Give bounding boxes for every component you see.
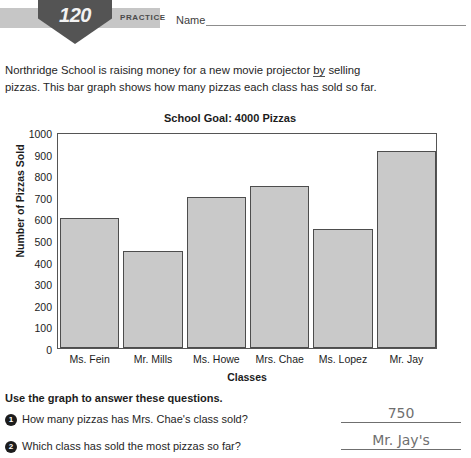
x-axis-tick-4: Mrs. Chae: [248, 353, 311, 365]
y-axis-tick-600: 600: [6, 214, 58, 226]
question-number-badge: 2: [5, 441, 17, 453]
question-text: How many pizzas has Mrs. Chae's class so…: [22, 413, 248, 425]
answer-text: Mr. Jay's: [341, 432, 461, 449]
intro-line-1-underlined: by: [313, 64, 325, 77]
lesson-badge: 120: [38, 0, 112, 44]
name-label: Name: [176, 14, 205, 26]
bar-ms-howe: [187, 197, 246, 348]
page-header: 120 PRACTICE Name: [0, 0, 471, 46]
chart-title: School Goal: 4000 Pizzas: [0, 112, 460, 124]
name-field[interactable]: Name: [176, 14, 466, 26]
bar-ms-fein: [60, 218, 119, 348]
practice-label: PRACTICE: [120, 13, 166, 22]
x-axis-tick-2: Mr. Mills: [121, 353, 184, 365]
chart-x-axis-label: Classes: [57, 371, 437, 383]
y-axis-tick-200: 200: [6, 301, 58, 313]
bar-mr-mills: [123, 251, 182, 348]
y-axis-tick-700: 700: [6, 193, 58, 205]
x-axis-tick-5: Ms. Lopez: [311, 353, 374, 365]
y-axis-tick-100: 100: [6, 322, 58, 334]
bar-chart-plot-area: 01002003004005006007008009001000Ms. Fein…: [57, 133, 437, 349]
bar-mr-jay: [377, 151, 436, 348]
y-axis-tick-400: 400: [6, 258, 58, 270]
question-text: Which class has sold the most pizzas so …: [22, 440, 241, 452]
intro-line-3: sold so far.: [322, 81, 377, 93]
answer-text: 750: [341, 405, 461, 422]
answer-field[interactable]: 750: [341, 405, 461, 423]
intro-paragraph: Northridge School is raising money for a…: [5, 62, 397, 95]
x-axis-tick-1: Ms. Fein: [58, 353, 121, 365]
bar-mrs-chae: [250, 186, 309, 348]
answer-rule: [341, 449, 461, 450]
intro-line-1: Northridge School is raising money for a…: [5, 64, 313, 76]
questions-heading: Use the graph to answer these questions.: [5, 392, 223, 404]
y-axis-tick-500: 500: [6, 236, 58, 248]
y-axis-tick-1000: 1000: [6, 128, 58, 140]
y-axis-tick-300: 300: [6, 279, 58, 291]
question-row: 2Which class has sold the most pizzas so…: [5, 440, 241, 453]
answer-field[interactable]: Mr. Jay's: [341, 432, 461, 450]
bar-ms-lopez: [313, 229, 372, 348]
question-number-badge: 1: [5, 414, 17, 426]
y-axis-tick-0: 0: [6, 344, 58, 356]
lesson-number: 120: [38, 2, 112, 28]
question-row: 1How many pizzas has Mrs. Chae's class s…: [5, 413, 248, 426]
y-axis-tick-900: 900: [6, 150, 58, 162]
name-input-rule[interactable]: [206, 14, 466, 26]
y-axis-tick-800: 800: [6, 171, 58, 183]
x-axis-tick-3: Ms. Howe: [185, 353, 248, 365]
x-axis-tick-6: Mr. Jay: [375, 353, 438, 365]
answer-rule: [341, 422, 461, 423]
